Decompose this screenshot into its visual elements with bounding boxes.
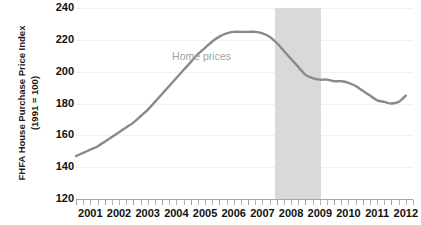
x-axis-major-tick (191, 200, 192, 205)
x-axis-major-tick (162, 200, 163, 205)
x-axis-major-tick (334, 200, 335, 205)
x-axis-minor-tick (234, 200, 235, 205)
x-axis-minor-tick (348, 200, 349, 205)
x-axis-major-tick (277, 200, 278, 205)
x-axis-minor-tick (205, 200, 206, 205)
y-axis-tick-label: 220 (40, 34, 74, 45)
x-axis-minor-tick (148, 200, 149, 205)
y-axis-tick-label: 240 (40, 2, 74, 13)
x-axis-minor-tick (406, 200, 407, 205)
y-axis-tick-label: 180 (40, 98, 74, 109)
x-axis-minor-tick (212, 200, 213, 205)
x-axis-major-tick (305, 200, 306, 205)
x-axis-minor-tick (141, 200, 142, 205)
x-axis-minor-tick (327, 200, 328, 205)
plot-area: Home prices (76, 8, 413, 199)
x-axis-minor-tick (341, 200, 342, 205)
x-axis-minor-tick (413, 200, 414, 205)
x-axis-minor-tick (377, 200, 378, 205)
x-axis-minor-tick (356, 200, 357, 205)
x-axis-tick-labels: 2001200220032004200520062007200820092010… (76, 206, 413, 224)
x-axis-minor-tick (262, 200, 263, 205)
x-axis-major-tick (219, 200, 220, 205)
y-axis-tick-label: 140 (40, 161, 74, 172)
x-axis-minor-tick (384, 200, 385, 205)
x-axis-minor-tick (399, 200, 400, 205)
x-axis-ticks (76, 200, 413, 205)
x-axis-minor-tick (284, 200, 285, 205)
x-axis-major-tick (248, 200, 249, 205)
x-axis-minor-tick (98, 200, 99, 205)
x-axis-major-tick (105, 200, 106, 205)
x-axis-tick-label: 2012 (386, 206, 421, 220)
y-axis-tick-label: 160 (40, 129, 74, 140)
x-axis-minor-tick (270, 200, 271, 205)
x-axis-minor-tick (184, 200, 185, 205)
x-axis-minor-tick (313, 200, 314, 205)
x-axis-minor-tick (176, 200, 177, 205)
x-axis-minor-tick (119, 200, 120, 205)
x-axis-minor-tick (291, 200, 292, 205)
x-axis-minor-tick (155, 200, 156, 205)
x-axis-major-tick (391, 200, 392, 205)
x-axis-major-tick (76, 200, 77, 205)
x-axis-minor-tick (227, 200, 228, 205)
x-axis-minor-tick (320, 200, 321, 205)
y-axis-tick-label: 200 (40, 66, 74, 77)
x-axis-minor-tick (126, 200, 127, 205)
chart-container: FHFA House Purchase Price Index (1991 = … (0, 0, 421, 225)
series-line-home-prices (76, 8, 413, 199)
x-axis-minor-tick (198, 200, 199, 205)
x-axis-minor-tick (90, 200, 91, 205)
x-axis-minor-tick (370, 200, 371, 205)
x-axis-minor-tick (83, 200, 84, 205)
x-axis-major-tick (363, 200, 364, 205)
x-axis-minor-tick (298, 200, 299, 205)
y-axis-tick-labels: 120140160180200220240 (30, 0, 74, 205)
x-axis-minor-tick (112, 200, 113, 205)
y-axis-title-line-1: FHFA House Purchase Price Index (15, 25, 28, 180)
series-annotation-home-prices: Home prices (172, 50, 231, 62)
x-axis-minor-tick (169, 200, 170, 205)
x-axis-minor-tick (255, 200, 256, 205)
x-axis-major-tick (133, 200, 134, 205)
y-axis-tick-label: 120 (40, 193, 74, 204)
x-axis-minor-tick (241, 200, 242, 205)
